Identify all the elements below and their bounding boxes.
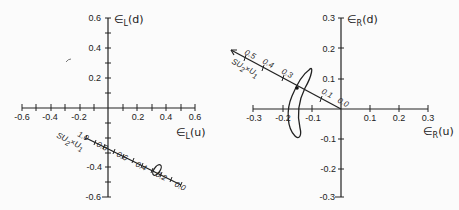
left-y-tick-0.6: 0.6 <box>88 13 101 23</box>
left-x-tick-neg0.2: -0.2 <box>71 112 87 122</box>
left-x-tick-neg0.6: -0.6 <box>14 112 30 122</box>
left-plot: 0.6 0.4 0.2 -0.4 -0.6 -0.6 -0.4 -0.2 0.2… <box>14 13 205 202</box>
left-x-tick-0.4: 0.4 <box>160 112 173 122</box>
left-x-tick-0.2: 0.2 <box>132 112 145 122</box>
right-x-tick-0.1: 0.1 <box>364 113 377 123</box>
right-param-0.5: 0.5 <box>243 48 258 61</box>
right-y-tick-0.3: 0.3 <box>322 13 335 23</box>
left-param-0.2: 0.2 <box>154 170 168 183</box>
left-y-tick-neg0.6: -0.6 <box>85 192 101 202</box>
left-param-0.0: 0.0 <box>173 180 187 193</box>
right-y-tick-0.2: 0.2 <box>322 44 335 54</box>
right-x-axis-title: ∈R(u) <box>423 125 454 140</box>
right-x-tick-0.3: 0.3 <box>422 113 435 123</box>
right-param-0.3: 0.3 <box>280 67 295 80</box>
right-plot: 0.3 0.2 0.1 -0.1 -0.2 -0.3 -0.3 -0.2 -0.… <box>229 13 454 202</box>
left-y-tick-0.4: 0.4 <box>88 43 101 53</box>
left-x-axis-title: ∈L(u) <box>176 126 206 141</box>
right-param-0.1: 0.1 <box>320 87 334 100</box>
left-y-axis-title: ∈L(d) <box>114 13 144 28</box>
left-y-tick-neg0.4: -0.4 <box>86 162 102 172</box>
right-y-tick-0.1: 0.1 <box>322 74 335 84</box>
right-y-tick-neg0.3: -0.3 <box>319 192 335 202</box>
right-x-tick-neg0.3: -0.3 <box>246 113 262 123</box>
left-x-tick-neg0.4: -0.4 <box>42 112 58 122</box>
left-x-tick-0.6: 0.6 <box>189 112 202 122</box>
right-best-fit-point <box>295 86 299 90</box>
figure: 0.6 0.4 0.2 -0.4 -0.6 -0.6 -0.4 -0.2 0.2… <box>0 0 459 210</box>
right-y-tick-neg0.2: -0.2 <box>320 164 336 174</box>
left-param-0.4: 0.4 <box>134 160 148 173</box>
left-param-0.8: 0.8 <box>95 140 109 153</box>
left-y-tick-0.2: 0.2 <box>88 73 101 83</box>
stray-mark <box>66 59 71 62</box>
left-param-0.6: 0.6 <box>115 150 129 163</box>
right-y-axis-title: ∈R(d) <box>347 13 378 28</box>
right-x-tick-0.2: 0.2 <box>393 113 406 123</box>
right-allowed-region <box>288 68 312 137</box>
right-y-tick-neg0.1: -0.1 <box>320 134 336 144</box>
right-x-tick-neg0.1: -0.1 <box>305 113 321 123</box>
